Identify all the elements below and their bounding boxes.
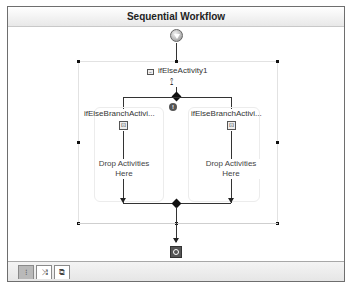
- ifelse-branch-1[interactable]: [94, 107, 164, 202]
- workflow-designer: Sequential Workflow − ifElseActivity1 ⟟ …: [7, 6, 345, 282]
- ifelse-branch-2[interactable]: [188, 107, 260, 202]
- stop-circle-icon: [173, 249, 179, 255]
- branch-2-name: ifElseBranchActivi...: [191, 109, 262, 118]
- arrow-down-icon: [173, 238, 179, 243]
- collapse-icon[interactable]: −: [147, 69, 154, 75]
- drop-zone-1[interactable]: Drop Activities Here: [96, 159, 152, 179]
- branch-icon: ⊡: [227, 121, 236, 130]
- connector: [176, 43, 177, 61]
- workflow-view-tab[interactable]: ⁝: [18, 265, 34, 279]
- drop-zone-2[interactable]: Drop Activities Here: [202, 159, 260, 179]
- workflow-start-icon[interactable]: [170, 29, 183, 42]
- down-arrow-icon: [174, 34, 180, 39]
- selection-handle[interactable]: [175, 60, 178, 63]
- error-indicator-icon[interactable]: !: [169, 103, 177, 111]
- view-tabs-footer: ⁝ ⤨ ⧉: [8, 261, 344, 281]
- fault-handlers-view-tab[interactable]: ⧉: [54, 265, 70, 279]
- branch-icon: ⊡: [119, 121, 128, 130]
- connector: [123, 97, 231, 98]
- connector: [176, 207, 177, 242]
- cancel-handler-view-tab[interactable]: ⤨: [36, 265, 52, 279]
- ifelse-icon: ⟟: [170, 77, 173, 88]
- drop-text-line1: Drop Activities: [96, 159, 152, 169]
- branch-1-name: ifElseBranchActivi...: [84, 109, 155, 118]
- container-bottom-line: [78, 223, 278, 224]
- workflow-end-icon[interactable]: [170, 246, 182, 258]
- selection-handle[interactable]: [276, 60, 279, 63]
- drop-text-line2: Here: [202, 169, 260, 179]
- selection-handle[interactable]: [77, 141, 80, 144]
- drop-text-line1: Drop Activities: [202, 159, 260, 169]
- selection-handle[interactable]: [77, 60, 80, 63]
- designer-title: Sequential Workflow: [8, 7, 344, 27]
- ifelse-activity-name: ifElseActivity1: [158, 66, 207, 75]
- selection-handle[interactable]: [276, 141, 279, 144]
- drop-text-line2: Here: [96, 169, 152, 179]
